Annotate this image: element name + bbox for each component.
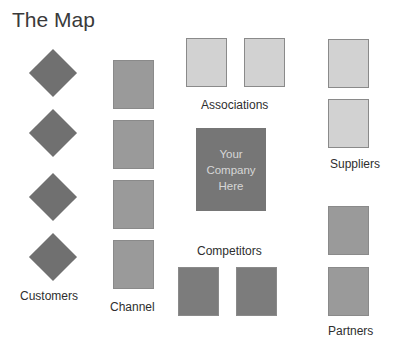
customer-diamond-2: [29, 109, 77, 157]
customers-label: Customers: [20, 289, 78, 303]
channel-box-3: [113, 180, 154, 229]
company-line-3: Here: [219, 178, 244, 194]
company-line-2: Company: [206, 162, 255, 178]
partners-box-2: [328, 267, 369, 316]
channel-box-4: [113, 240, 154, 289]
suppliers-box-1: [328, 39, 369, 88]
associations-label: Associations: [201, 98, 268, 112]
customer-diamond-1: [29, 49, 77, 97]
suppliers-box-2: [328, 99, 369, 148]
associations-box-1: [186, 38, 227, 87]
company-line-1: Your: [219, 146, 242, 162]
channel-label: Channel: [110, 300, 155, 314]
customer-diamond-3: [29, 173, 77, 221]
competitors-label: Competitors: [197, 244, 262, 258]
your-company-box: Your Company Here: [196, 128, 266, 211]
associations-box-2: [244, 38, 285, 87]
partners-label: Partners: [328, 324, 373, 338]
partners-box-1: [328, 206, 369, 255]
competitors-box-1: [178, 267, 219, 316]
channel-box-1: [113, 60, 154, 109]
suppliers-label: Suppliers: [330, 157, 380, 171]
competitors-box-2: [236, 267, 277, 316]
customer-diamond-4: [29, 233, 77, 281]
page-title: The Map: [12, 8, 95, 32]
channel-box-2: [113, 120, 154, 169]
